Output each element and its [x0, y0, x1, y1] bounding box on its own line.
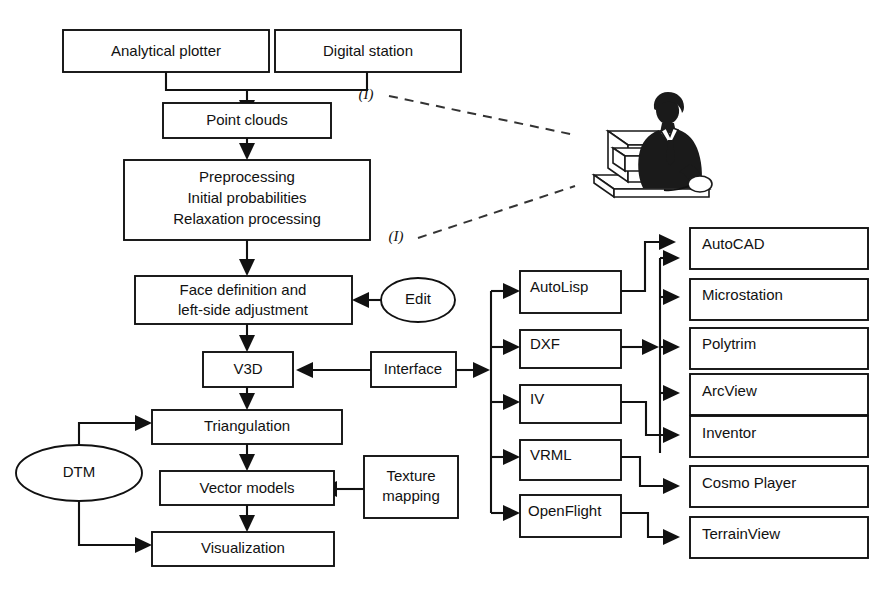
arrowhead-bus-in [473, 362, 490, 378]
node-face-definition: Face definition and left-side adjustment [135, 276, 352, 324]
arrowhead-visualization-dtm-in [135, 537, 152, 553]
label-face-definition-line2: left-side adjustment [178, 301, 309, 318]
node-analytical-plotter: Analytical plotter [63, 30, 269, 72]
label-inventor: Inventor [702, 424, 756, 441]
label-texture-mapping-line2: mapping [382, 487, 440, 504]
node-dtm: DTM [16, 445, 142, 501]
label-face-definition-line1: Face definition and [180, 281, 307, 298]
node-iv: IV [520, 385, 621, 423]
connector-dtm-to-triangulation [79, 423, 138, 446]
label-visualization: Visualization [201, 539, 285, 556]
arrowhead-autocad-in-b [663, 250, 680, 266]
node-vrml: VRML [520, 440, 621, 480]
node-openflight: OpenFlight [520, 495, 621, 537]
arrowhead-v3d-interface-in [296, 362, 313, 378]
label-cosmo-player: Cosmo Player [702, 474, 796, 491]
label-preprocessing-line2: Initial probabilities [187, 189, 306, 206]
label-microstation: Microstation [702, 286, 783, 303]
label-openflight: OpenFlight [528, 502, 602, 519]
arrowhead-dxf-in [503, 339, 520, 355]
arrowhead-v3d-in [239, 335, 255, 352]
label-iv: IV [530, 390, 544, 407]
node-vector-models: Vector models [160, 471, 334, 505]
label-analytical-plotter: Analytical plotter [111, 42, 221, 59]
label-interface: Interface [384, 360, 442, 377]
label-autocad: AutoCAD [702, 235, 765, 252]
label-arcview: ArcView [702, 382, 757, 399]
arrowhead-vrml-in [503, 449, 520, 465]
label-polytrim: Polytrim [702, 335, 756, 352]
node-edit: Edit [381, 278, 455, 322]
arrowhead-triangulation-in [239, 393, 255, 410]
operator-at-computer-icon [594, 92, 712, 197]
arrowhead-face-in [239, 259, 255, 276]
node-texture-mapping: Texture mapping [364, 456, 458, 518]
node-microstation: Microstation [690, 279, 868, 320]
arrowhead-polytrim-in [663, 339, 680, 355]
connector-dtm-to-visualization [79, 500, 138, 545]
label-terrainview: TerrainView [702, 525, 780, 542]
connector-vrml-to-cosmo [621, 457, 666, 486]
node-polytrim: Polytrim [690, 328, 868, 369]
annotation-marker-bottom: (I) [389, 228, 404, 245]
node-autocad: AutoCAD [690, 228, 868, 269]
label-point-clouds: Point clouds [206, 111, 288, 128]
dashed-link-top [389, 96, 575, 135]
label-dxf: DXF [530, 335, 560, 352]
arrowhead-vector-in [239, 454, 255, 471]
arrowhead-inventor-in [663, 427, 680, 443]
connector-digital-to-pointclouds [247, 72, 367, 90]
annotation-marker-top: (I) [359, 86, 374, 103]
arrowhead-microstation-in [663, 289, 680, 305]
arrowhead-openflight-in [503, 505, 520, 521]
arrowhead-terrainview-in [663, 529, 680, 545]
workflow-flowchart: Analytical plotter Digital station Point… [0, 0, 891, 595]
connector-openflight-to-terrainview [621, 513, 666, 537]
node-preprocessing: Preprocessing Initial probabilities Rela… [124, 160, 370, 240]
node-cosmo-player: Cosmo Player [690, 466, 868, 507]
node-dxf: DXF [520, 330, 621, 368]
node-inventor: Inventor [690, 416, 868, 457]
label-autolisp: AutoLisp [530, 278, 588, 295]
node-autolisp: AutoLisp [520, 271, 621, 313]
arrowhead-autolisp-in [503, 283, 520, 299]
node-digital-station: Digital station [275, 30, 461, 72]
node-triangulation: Triangulation [152, 410, 342, 444]
arrowhead-triangulation-dtm-in [135, 415, 152, 431]
dashed-link-bottom [418, 186, 575, 238]
node-arcview: ArcView [690, 374, 868, 415]
arrowhead-autocad-in-a [659, 234, 676, 250]
node-point-clouds: Point clouds [163, 103, 331, 138]
label-texture-mapping-line1: Texture [386, 467, 435, 484]
arrowhead-face-edit-in [352, 292, 369, 308]
diagram-canvas: Analytical plotter Digital station Point… [0, 0, 891, 595]
arrowhead-visualization-in [239, 515, 255, 532]
arrowhead-cosmo-in [663, 478, 680, 494]
connector-analytical-to-pointclouds [166, 72, 247, 103]
label-preprocessing-line3: Relaxation processing [173, 210, 321, 227]
arrowhead-preprocessing-in [239, 143, 255, 160]
arrowhead-iv-in [503, 394, 520, 410]
label-digital-station: Digital station [323, 42, 413, 59]
label-dtm: DTM [63, 463, 96, 480]
label-triangulation: Triangulation [204, 417, 290, 434]
label-preprocessing-line1: Preprocessing [199, 168, 295, 185]
label-vector-models: Vector models [199, 479, 294, 496]
label-edit: Edit [405, 290, 432, 307]
connector-autolisp-to-autocad [621, 242, 661, 291]
node-terrainview: TerrainView [690, 517, 868, 558]
label-v3d: V3D [233, 360, 262, 377]
node-v3d: V3D [203, 352, 293, 387]
label-vrml: VRML [530, 446, 572, 463]
arrowhead-bus2-in [642, 339, 659, 355]
node-visualization: Visualization [152, 532, 334, 566]
node-interface: Interface [371, 352, 456, 387]
arrowhead-arcview-in [663, 385, 680, 401]
